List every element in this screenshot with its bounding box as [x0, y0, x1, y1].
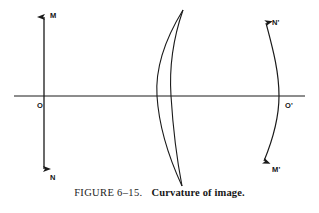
- curved-image-surface: [264, 23, 279, 161]
- label-N-prime: N': [272, 18, 280, 27]
- caption-figure-number: FIGURE 6–15.: [74, 187, 142, 198]
- figure-caption: FIGURE 6–15. Curvature of image.: [0, 187, 319, 205]
- label-O-prime: O': [285, 101, 293, 110]
- label-O: O: [37, 101, 43, 110]
- lens-back-surface: [171, 10, 183, 186]
- caption-title: Curvature of image.: [152, 187, 245, 198]
- label-N: N: [50, 173, 56, 182]
- figure-container: M N O N' M' O' FIGURE 6–15. Curvature of…: [0, 0, 319, 213]
- label-M: M: [50, 11, 56, 20]
- lens-front-surface: [157, 10, 183, 186]
- optics-diagram: M N O N' M' O': [0, 0, 319, 213]
- label-M-prime: M': [272, 165, 280, 174]
